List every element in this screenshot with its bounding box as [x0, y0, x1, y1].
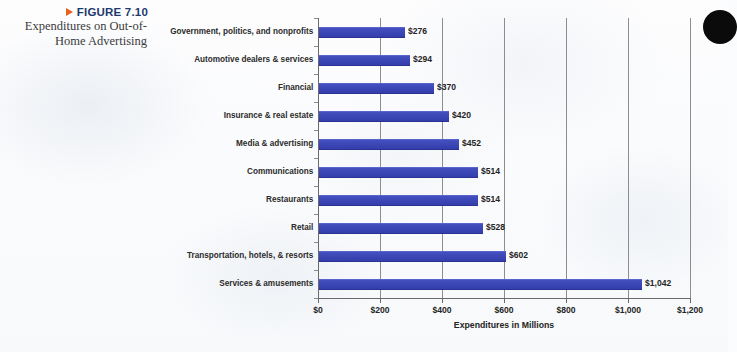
figure-caption-block: FIGURE 7.10 Expenditures on Out-of- Home… [0, 6, 148, 48]
bar-value-label: $276 [408, 26, 427, 36]
category-label: Automotive dealers & services [30, 54, 318, 64]
y-axis-tick [314, 158, 318, 159]
bar [319, 27, 405, 38]
y-axis-tick [314, 242, 318, 243]
bar [319, 195, 478, 206]
x-axis-tick-label: $0 [313, 305, 323, 315]
triangle-right-icon [66, 8, 73, 16]
bar [319, 167, 478, 178]
bar [319, 251, 506, 262]
y-axis-tick [314, 186, 318, 187]
bar [319, 223, 483, 234]
gridline [566, 18, 567, 298]
x-axis-tick [318, 299, 319, 303]
y-axis-tick [314, 270, 318, 271]
category-label: Communications [30, 166, 318, 176]
figure-number: FIGURE 7.10 [77, 6, 148, 18]
bar-value-label: $514 [481, 166, 500, 176]
category-label: Financial [30, 82, 318, 92]
category-label: Retail [30, 222, 318, 232]
category-label: Services & amusements [30, 278, 318, 288]
bar [319, 83, 434, 94]
x-axis-tick-label: $400 [432, 305, 451, 315]
bar [319, 139, 459, 150]
x-axis-tick [566, 299, 567, 303]
bar [319, 111, 449, 122]
bar [319, 279, 642, 290]
bar-value-label: $370 [437, 82, 456, 92]
y-axis-tick [314, 46, 318, 47]
figure-number-row: FIGURE 7.10 [0, 6, 148, 18]
bar-value-label: $528 [486, 222, 505, 232]
bar-value-label: $420 [452, 110, 471, 120]
x-axis-tick [628, 299, 629, 303]
x-axis-tick-label: $200 [370, 305, 389, 315]
y-axis-tick [314, 18, 318, 19]
bar-value-label: $294 [413, 54, 432, 64]
figure-caption-line-1: Expenditures on Out-of- [0, 19, 147, 34]
figure-caption: Expenditures on Out-of- Home Advertising [0, 19, 148, 48]
category-label: Restaurants [30, 194, 318, 204]
x-axis-tick-label: $800 [556, 305, 575, 315]
figure-caption-line-2: Home Advertising [0, 34, 147, 49]
x-axis-tick-label: $1,000 [615, 305, 641, 315]
category-label: Insurance & real estate [30, 110, 318, 120]
x-axis-title: Expenditures in Millions [454, 320, 554, 330]
x-axis-tick [504, 299, 505, 303]
x-axis-tick-label: $600 [494, 305, 513, 315]
black-circle-icon [703, 10, 737, 44]
bar-value-label: $1,042 [645, 278, 671, 288]
gridline [628, 18, 629, 298]
x-axis-tick-label: $1,200 [677, 305, 703, 315]
y-axis-tick [314, 74, 318, 75]
x-axis-tick [690, 299, 691, 303]
category-label: Media & advertising [30, 138, 318, 148]
bar [319, 55, 410, 66]
bar-value-label: $514 [481, 194, 500, 204]
x-axis-tick [380, 299, 381, 303]
bar-value-label: $602 [509, 250, 528, 260]
category-label: Transportation, hotels, & resorts [30, 250, 318, 260]
y-axis-tick [314, 214, 318, 215]
y-axis-tick [314, 130, 318, 131]
x-axis-tick [442, 299, 443, 303]
bar-value-label: $452 [462, 138, 481, 148]
y-axis-tick [314, 102, 318, 103]
gridline [690, 18, 691, 298]
